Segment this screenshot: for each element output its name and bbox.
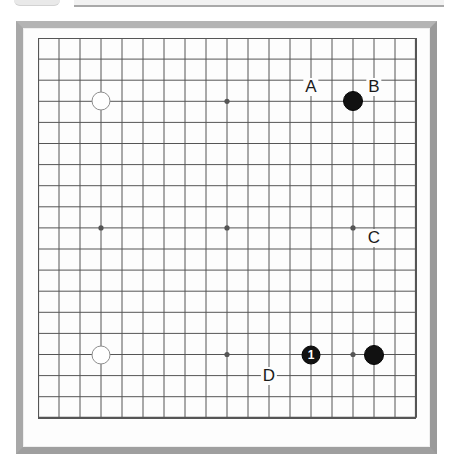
go-board-surface[interactable]: 1ABCD [38, 38, 417, 438]
star-point [224, 352, 229, 357]
star-point [350, 352, 355, 357]
point-label-b: B [366, 78, 381, 96]
star-point [224, 99, 229, 104]
black-stone[interactable] [343, 91, 363, 111]
star-point [224, 225, 229, 230]
point-label-d: D [261, 367, 277, 385]
star-point [98, 225, 103, 230]
point-label-c: C [366, 229, 382, 247]
screenshot-root: 1ABCD [0, 0, 460, 475]
cropped-tab-fragment [14, 0, 60, 6]
white-stone[interactable] [92, 92, 111, 111]
cropped-toolbar-fragment [74, 0, 444, 7]
white-stone[interactable] [92, 345, 111, 364]
star-point [350, 225, 355, 230]
black-stone-move-1[interactable]: 1 [302, 345, 321, 364]
black-stone[interactable] [364, 345, 384, 365]
stone-move-number: 1 [308, 349, 315, 361]
point-label-a: A [303, 78, 318, 96]
